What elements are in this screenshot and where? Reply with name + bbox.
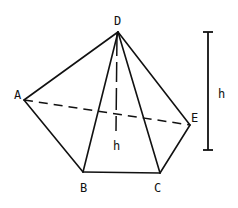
edge-CE: [160, 125, 190, 173]
height-label-scale: h: [218, 87, 225, 101]
edge-BC: [83, 172, 160, 173]
hidden-edge-AE: [24, 100, 190, 125]
vertex-label-D: D: [114, 14, 121, 28]
pyramid-diagram: D A E B C h h: [0, 0, 238, 208]
height-line: [116, 34, 117, 131]
edge-DC: [118, 32, 160, 173]
vertex-label-A: A: [14, 88, 22, 102]
height-label-inner: h: [113, 139, 120, 153]
vertex-label-C: C: [154, 181, 161, 195]
vertex-label-E: E: [191, 111, 198, 125]
edge-AB: [24, 100, 83, 172]
edge-DE: [118, 32, 190, 125]
vertex-label-B: B: [80, 181, 87, 195]
